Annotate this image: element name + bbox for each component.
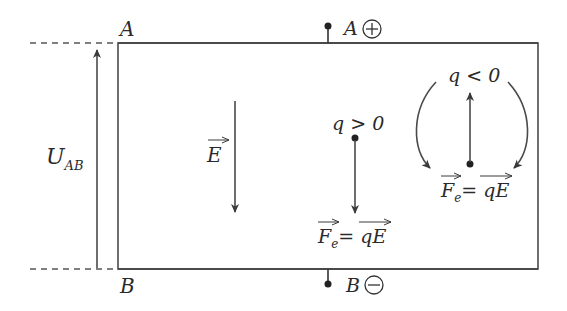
negative-force-equation: Fe= qE <box>440 179 509 205</box>
electric-field-diagram: UAB A B A B E q > 0 Fe= qE q < 0 Fe= qE <box>0 0 567 311</box>
terminal-b-label: B <box>345 274 360 296</box>
positive-charge-label: q > 0 <box>332 112 384 134</box>
curved-arrow-left-icon <box>416 82 436 168</box>
negative-charge-label: q < 0 <box>448 64 500 86</box>
terminal-a-dot-icon <box>325 23 332 30</box>
field-label: E <box>206 143 222 167</box>
voltage-label: UAB <box>46 144 84 173</box>
curved-arrow-right-icon <box>508 82 528 168</box>
plate-b-label: B <box>119 274 135 298</box>
terminal-b-dot-icon <box>325 281 332 288</box>
positive-force-equation: Fe= qE <box>317 225 386 251</box>
terminal-a-label: A <box>342 17 358 39</box>
plate-a-label: A <box>118 17 134 41</box>
